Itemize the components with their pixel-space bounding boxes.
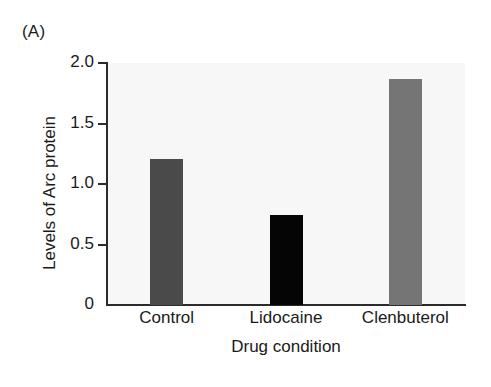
y-tick-label: 1.0 — [48, 173, 94, 193]
x-tick-label-clenbuterol: Clenbuterol — [362, 308, 449, 328]
y-axis-tick-labels: 00.51.01.52.0 — [42, 0, 94, 387]
figure-panel-a: (A) Levels of Arc protein 00.51.01.52.0 … — [0, 0, 491, 387]
bar-lidocaine — [270, 215, 303, 305]
x-axis-tick-labels: ControlLidocaineClenbuterol — [107, 308, 465, 334]
bar-group — [150, 63, 183, 305]
bar-group — [389, 63, 422, 305]
y-tick-label: 0 — [48, 294, 94, 314]
bar-clenbuterol — [389, 79, 422, 305]
y-tick-label: 1.5 — [48, 113, 94, 133]
y-tick-label: 2.0 — [48, 52, 94, 72]
x-tick-label-control: Control — [139, 308, 194, 328]
bars-layer — [107, 63, 465, 305]
bar-group — [270, 63, 303, 305]
bar-control — [150, 159, 183, 305]
y-tick-label: 0.5 — [48, 234, 94, 254]
x-axis-label: Drug condition — [107, 337, 465, 357]
x-tick-label-lidocaine: Lidocaine — [250, 308, 323, 328]
